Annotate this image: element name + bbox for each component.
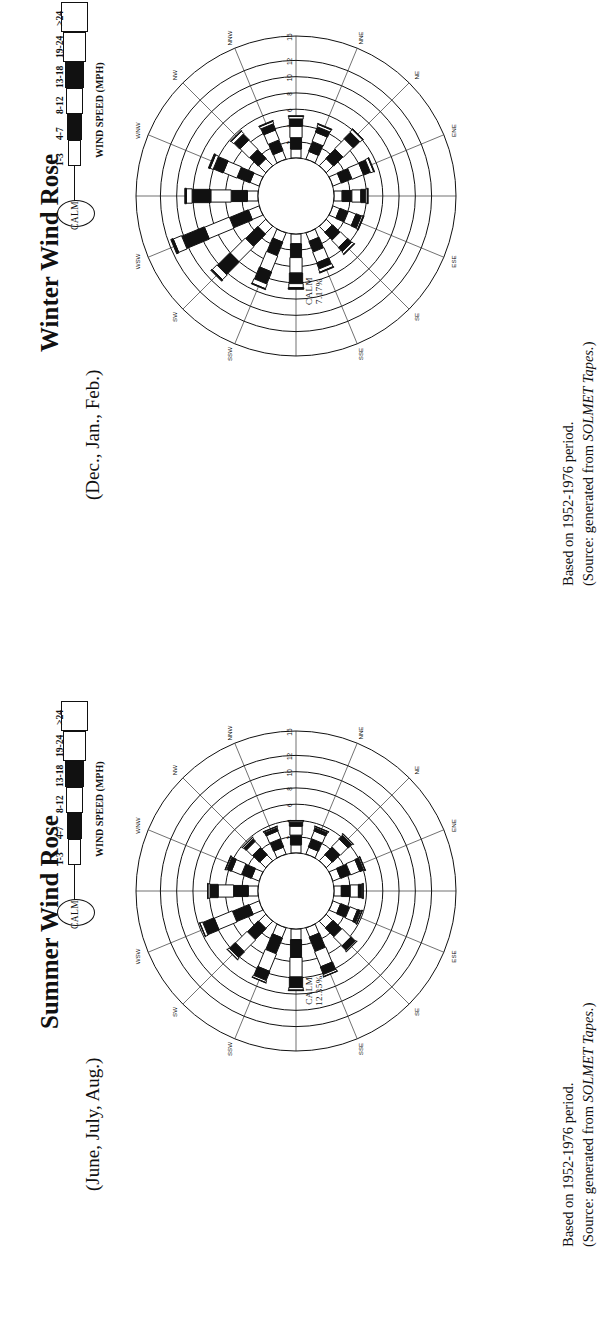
legend-seg-13-18 (65, 761, 84, 787)
svg-text:NW: NW (171, 70, 178, 80)
svg-text:10: 10 (286, 74, 293, 82)
svg-text:NE: NE (413, 766, 420, 775)
svg-text:SE: SE (413, 1008, 420, 1016)
svg-text:SSW: SSW (226, 1042, 233, 1056)
svg-text:10: 10 (286, 769, 293, 777)
legend-label-1-3: 1-3 (54, 852, 65, 865)
legend-seg-19-24 (63, 731, 86, 761)
legend-label-gt24: >24 (54, 710, 65, 725)
subtitle-winter: (Dec., Jan., Feb.) (82, 370, 104, 500)
svg-text:ESE: ESE (450, 255, 457, 267)
svg-text:SW: SW (171, 1007, 178, 1017)
footer-prefix: (Source: generated from (580, 441, 596, 586)
legend-seg-1-3 (68, 140, 81, 166)
wind-rose-chart-summer: 2468101215NNNENEENEEESESESSESSSWSWWSWWWN… (128, 723, 464, 1059)
svg-text:WSW: WSW (134, 253, 141, 269)
legend-seg-8-12 (66, 787, 83, 813)
legend-label-8-12: 8-12 (54, 795, 65, 813)
legend-seg-gt24 (61, 2, 88, 32)
footer-suffix: ) (580, 1003, 596, 1008)
legend-seg-19-24 (63, 32, 86, 62)
calm-label: CALM (304, 975, 314, 1006)
legend-summer: CALM 1-3 4-7 8-12 13-18 19-24 >24 WIND S… (46, 717, 102, 932)
footer-source-em: SOLMET Tapes. (580, 1007, 596, 1102)
svg-text:WNW: WNW (134, 122, 141, 138)
svg-text:NNE: NNE (357, 726, 364, 739)
svg-text:15: 15 (286, 33, 293, 41)
subtitle-summer: (June, July, Aug.) (82, 1058, 104, 1191)
legend-seg-1-3 (68, 839, 81, 865)
legend-label-8-12: 8-12 (54, 96, 65, 114)
calm-readout-summer: CALM12.35% (304, 975, 324, 1006)
legend-label-13-18: 13-18 (54, 66, 65, 88)
legend-label-gt24: >24 (54, 11, 65, 26)
legend-label-19-24: 19-24 (54, 36, 65, 58)
legend-label-19-24: 19-24 (54, 735, 65, 757)
wind-rose-chart-winter: 2468101215NNNENEENEEESESESSESSSWSWWSWWWN… (128, 28, 464, 364)
legend-stem (74, 166, 75, 201)
legend-axis-label: WIND SPEED (MPH) (94, 62, 105, 158)
legend-seg-13-18 (65, 62, 84, 88)
svg-text:NNW: NNW (226, 725, 233, 740)
legend-label-1-3: 1-3 (54, 153, 65, 166)
svg-text:NE: NE (413, 71, 420, 80)
legend-seg-gt24 (61, 701, 88, 731)
legend-seg-4-7 (67, 813, 82, 839)
footer-source-em: SOLMET Tapes. (580, 346, 596, 441)
svg-text:E: E (463, 889, 464, 893)
legend-seg-8-12 (66, 88, 83, 114)
calm-value: 12.35% (314, 975, 324, 1006)
footer-suffix: ) (580, 342, 596, 347)
svg-text:NW: NW (171, 765, 178, 775)
svg-text:12: 12 (286, 752, 293, 760)
svg-text:SSW: SSW (226, 347, 233, 361)
legend-label-13-18: 13-18 (54, 765, 65, 787)
svg-text:6: 6 (286, 108, 293, 112)
svg-text:WNW: WNW (134, 817, 141, 833)
svg-text:ESE: ESE (450, 950, 457, 962)
legend-stem (74, 865, 75, 900)
footer-line1-winter: Based on 1952-1976 period. (560, 422, 577, 586)
calm-label: CALM (304, 277, 314, 305)
footer-line1-summer: Based on 1952-1976 period. (560, 1083, 577, 1247)
svg-text:SSE: SSE (357, 348, 364, 360)
legend-calm-label: CALM (70, 201, 80, 230)
svg-text:NNE: NNE (357, 31, 364, 44)
legend-seg-4-7 (67, 114, 82, 140)
svg-text:SW: SW (171, 312, 178, 322)
svg-text:ENE: ENE (450, 124, 457, 137)
calm-value: 7.17% (314, 277, 324, 305)
footer-prefix: (Source: generated from (580, 1102, 596, 1247)
svg-text:SE: SE (413, 313, 420, 321)
legend-winter: CALM 1-3 4-7 8-12 13-18 19-24 >24 WIND S… (46, 18, 102, 233)
calm-readout-winter: CALM7.17% (304, 277, 324, 305)
svg-text:15: 15 (286, 728, 293, 736)
svg-text:8: 8 (286, 92, 293, 96)
svg-text:WSW: WSW (134, 948, 141, 964)
legend-label-4-7: 4-7 (54, 127, 65, 140)
svg-text:12: 12 (286, 57, 293, 65)
legend-calm-label: CALM (70, 900, 80, 929)
svg-text:6: 6 (286, 803, 293, 807)
summer-wind-rose-panel: Summer Wind Rose (June, July, Aug.) CALM… (0, 661, 592, 1322)
winter-wind-rose-panel: Winter Wind Rose (Dec., Jan., Feb.) CALM… (0, 0, 592, 661)
svg-text:NNW: NNW (226, 30, 233, 45)
svg-text:E: E (463, 194, 464, 198)
svg-text:8: 8 (286, 787, 293, 791)
footer-line2-winter: (Source: generated from SOLMET Tapes.) (580, 342, 597, 586)
svg-text:SSE: SSE (357, 1043, 364, 1055)
legend-label-4-7: 4-7 (54, 826, 65, 839)
svg-text:ENE: ENE (450, 819, 457, 832)
footer-line2-summer: (Source: generated from SOLMET Tapes.) (580, 1003, 597, 1247)
legend-axis-label: WIND SPEED (MPH) (94, 761, 105, 857)
